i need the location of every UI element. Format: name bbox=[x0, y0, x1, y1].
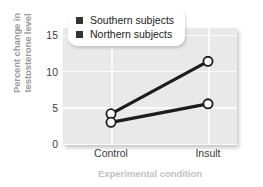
data-point-southern-insult bbox=[203, 57, 212, 66]
data-point-northern-control bbox=[106, 118, 115, 127]
y-tick-label: 10 bbox=[38, 67, 58, 78]
data-point-northern-insult bbox=[203, 99, 212, 108]
x-tick-label-control: Control bbox=[76, 148, 146, 159]
legend-item-southern: Southern subjects bbox=[76, 13, 174, 27]
x-tick-label-insult: Insult bbox=[173, 148, 243, 159]
legend-swatch-icon bbox=[76, 31, 83, 38]
y-tick-label: 15 bbox=[38, 30, 58, 41]
legend-swatch-icon bbox=[76, 17, 83, 24]
y-tick-label: 5 bbox=[38, 103, 58, 114]
y-axis-title-line1: Percent change in bbox=[11, 0, 22, 113]
y-tick-label: 0 bbox=[38, 139, 58, 150]
legend-label-northern: Northern subjects bbox=[90, 29, 172, 40]
series-northern-subjects bbox=[106, 99, 212, 127]
y-axis-title: Percent change in testosterone level bbox=[11, 0, 37, 113]
y-axis-tick-labels: 15 10 5 0 bbox=[36, 0, 58, 187]
x-axis-title: Experimental condition bbox=[63, 168, 237, 179]
legend-item-northern: Northern subjects bbox=[76, 27, 174, 41]
legend-label-southern: Southern subjects bbox=[90, 15, 174, 26]
series-southern-subjects bbox=[106, 57, 212, 119]
chart-legend: Southern subjects Northern subjects bbox=[68, 8, 185, 46]
chart-figure: Percent change in testosterone level 15 … bbox=[0, 0, 263, 187]
y-axis-title-line2: testosterone level bbox=[22, 0, 33, 113]
